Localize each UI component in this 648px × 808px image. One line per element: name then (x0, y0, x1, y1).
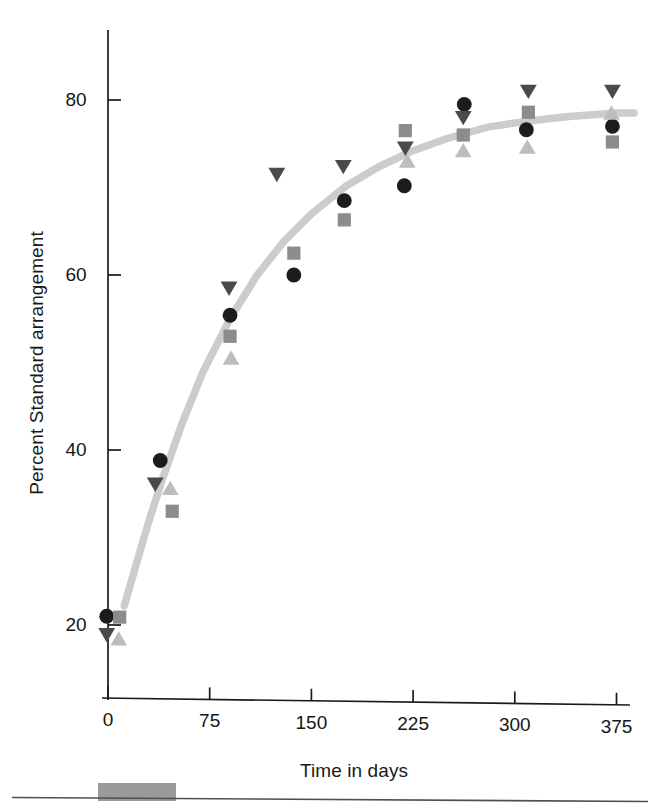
series-replicate-4 (110, 105, 620, 645)
marker-square (457, 128, 470, 141)
x-axis-line (102, 698, 630, 705)
fitted-curve (124, 113, 634, 606)
marker-square (399, 124, 412, 137)
marker-square (166, 505, 179, 518)
marker-triangle-down (604, 85, 621, 99)
data-markers (98, 85, 621, 646)
marker-triangle-down (268, 168, 285, 182)
marker-circle (397, 178, 412, 193)
series-replicate-3 (98, 85, 621, 643)
marker-circle (605, 119, 620, 134)
marker-triangle-down (520, 85, 537, 99)
marker-circle (99, 609, 114, 624)
marker-square (522, 106, 535, 119)
marker-square (606, 135, 619, 148)
marker-square (338, 213, 351, 226)
marker-square (113, 611, 126, 624)
marker-triangle-up (223, 350, 240, 364)
marker-circle (286, 268, 301, 283)
marker-square (287, 247, 300, 260)
marker-circle (457, 97, 472, 112)
marker-triangle-down (221, 282, 238, 296)
marker-triangle-up (455, 143, 472, 157)
marker-circle (519, 122, 534, 137)
series-replicate-2 (113, 106, 619, 624)
marker-triangle-down (98, 628, 115, 642)
marker-circle (153, 453, 168, 468)
chart-figure: Percent Standard arrangement Time in day… (0, 0, 648, 808)
axes (102, 30, 630, 705)
page-edge-artifact (0, 782, 648, 808)
marker-triangle-up (110, 631, 127, 645)
plot-area (0, 0, 648, 808)
marker-square (223, 330, 236, 343)
marker-circle (337, 193, 352, 208)
marker-circle (223, 308, 238, 323)
marker-triangle-up (519, 139, 536, 153)
marker-triangle-down (455, 111, 472, 125)
marker-triangle-down (335, 160, 352, 174)
fit-curve-path (124, 113, 634, 606)
